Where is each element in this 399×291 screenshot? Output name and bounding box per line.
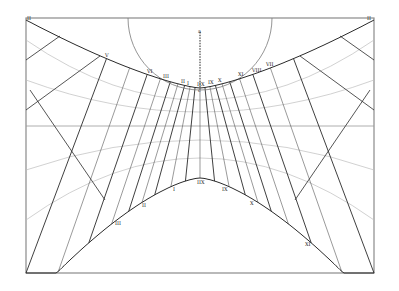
- upper-hour-label: IIX: [197, 81, 205, 87]
- upper-hour-label: V: [104, 52, 109, 58]
- gnomon-top-label: a: [198, 28, 201, 34]
- upper-hour-label: III: [163, 73, 169, 79]
- upper-hour-label: VI: [146, 68, 153, 74]
- upper-hour-label: IX: [208, 79, 214, 85]
- upper-hour-label: II: [367, 15, 371, 21]
- lower-hour-label: IIX: [197, 179, 205, 185]
- upper-hour-label: VIII: [251, 67, 262, 73]
- upper-hour-label: VII: [265, 61, 274, 67]
- lower-hour-label: XI: [305, 241, 311, 247]
- upper-hour-label: II: [27, 15, 31, 21]
- lower-hour-label: IX: [222, 186, 228, 192]
- upper-hour-label: I: [187, 80, 189, 86]
- upper-hour-label: X: [218, 77, 222, 83]
- lower-hour-label: X: [250, 200, 254, 206]
- gnomon-bottom-label: c: [198, 87, 201, 93]
- lower-hour-label: I: [173, 186, 175, 192]
- upper-hour-label: XI: [238, 71, 244, 77]
- lower-hour-label: II: [142, 202, 146, 208]
- sundial-diagram: a c IIVVIIIIIIIIIXIXXXIVIIIVIIIIIIIIIIII…: [0, 0, 399, 291]
- upper-hour-label: II: [181, 78, 185, 84]
- lower-hour-label: III: [115, 220, 121, 226]
